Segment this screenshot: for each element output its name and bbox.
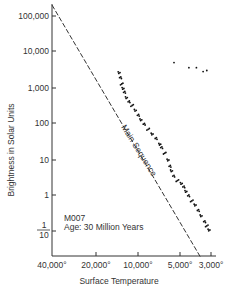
main-sequence-star xyxy=(193,203,195,205)
main-sequence-star xyxy=(170,166,172,168)
main-sequence-star xyxy=(187,195,189,197)
main-sequence-star xyxy=(160,147,162,149)
x-tick-labels: 40,000° 20,000° 10,000° 5,000° 3,000° xyxy=(37,260,223,270)
y-axis-title: Brightness in Solar Units xyxy=(6,103,16,196)
main-sequence-star xyxy=(167,160,169,162)
main-sequence-star xyxy=(121,78,123,80)
y-tick-label: 100,000 xyxy=(18,11,49,21)
main-sequence-star xyxy=(142,123,144,125)
y-tick-label: 100 xyxy=(35,118,49,128)
main-sequence-star xyxy=(175,181,177,183)
main-sequence-star xyxy=(174,176,176,178)
x-axis-title: Surface Temperature xyxy=(79,276,158,286)
y-tick-label-denominator: 10 xyxy=(39,230,49,240)
main-sequence-star xyxy=(200,216,202,218)
main-sequence-star xyxy=(197,210,199,212)
main-sequence-star xyxy=(144,124,146,126)
main-sequence-star xyxy=(130,105,132,107)
y-tick-label: 1 xyxy=(44,190,49,200)
x-tick-label: 5,000° xyxy=(168,260,193,270)
main-sequence-star xyxy=(180,183,182,185)
main-sequence-star xyxy=(199,214,201,216)
main-sequence-star xyxy=(189,196,191,198)
red-giant-star xyxy=(173,62,175,64)
main-sequence-star xyxy=(150,132,152,134)
main-sequence-star xyxy=(205,226,207,228)
main-sequence-star xyxy=(172,175,174,177)
main-sequence-star xyxy=(121,87,123,89)
y-tick-label: 10 xyxy=(40,155,50,165)
main-sequence-star xyxy=(203,221,205,223)
main-sequence-star xyxy=(129,102,131,104)
red-giant-star xyxy=(202,71,204,73)
main-sequence-star xyxy=(134,110,136,112)
main-sequence-star xyxy=(151,134,153,136)
main-sequence-star xyxy=(117,71,119,73)
y-ticks xyxy=(52,16,56,231)
main-sequence-star xyxy=(180,182,182,184)
y-tick-label: 1,000 xyxy=(28,83,50,93)
main-sequence-star xyxy=(207,228,209,230)
main-sequence-star xyxy=(146,129,148,131)
main-sequence-star xyxy=(166,158,168,160)
main-sequence-label: Main Sequence xyxy=(119,123,159,179)
red-giant-star xyxy=(188,67,190,69)
main-sequence-star xyxy=(184,190,186,192)
main-sequence-star xyxy=(138,115,140,117)
x-ticks xyxy=(96,252,211,256)
main-sequence-star xyxy=(162,148,164,150)
main-sequence-star xyxy=(205,222,207,224)
main-sequence-star xyxy=(122,88,124,90)
main-sequence-star xyxy=(139,118,141,120)
main-sequence-star xyxy=(118,73,120,75)
main-sequence-star xyxy=(158,143,160,145)
y-tick-labels: 100,000 10,000 1,000 100 10 1 1 10 xyxy=(18,11,50,240)
main-sequence-star xyxy=(125,98,127,100)
red-giant-star xyxy=(206,70,208,72)
y-tick-label-numerator: 1 xyxy=(42,220,47,230)
main-sequence-star xyxy=(194,205,196,207)
main-sequence-star xyxy=(123,91,125,93)
main-sequence-star xyxy=(208,230,210,232)
x-tick-label: 3,000° xyxy=(199,260,224,270)
main-sequence-star xyxy=(170,169,172,171)
cluster-age: Age: 30 Million Years xyxy=(64,222,143,232)
main-sequence-star xyxy=(119,77,121,79)
main-sequence-star xyxy=(170,171,172,173)
main-sequence-star xyxy=(156,138,158,140)
main-sequence-star xyxy=(125,96,127,98)
y-tick-label: 10,000 xyxy=(23,46,49,56)
red-giant-star xyxy=(196,67,198,69)
main-sequence-star xyxy=(159,144,161,146)
main-sequence-star xyxy=(168,165,170,167)
main-sequence-star xyxy=(134,109,136,111)
main-sequence-star xyxy=(190,201,192,203)
main-sequence-star xyxy=(184,187,186,189)
main-sequence-star xyxy=(163,153,165,155)
hr-diagram-chart: 100,000 10,000 1,000 100 10 1 1 10 40,00… xyxy=(0,0,229,291)
main-sequence-star xyxy=(182,186,184,188)
x-tick-label: 20,000° xyxy=(81,260,110,270)
main-sequence-star xyxy=(140,120,142,122)
main-sequence-star xyxy=(198,210,200,212)
main-sequence-star xyxy=(125,92,127,94)
main-sequence-star xyxy=(154,138,156,140)
main-sequence-star xyxy=(185,191,187,193)
main-sequence-star xyxy=(127,101,129,103)
main-sequence-star xyxy=(120,84,122,86)
main-sequence-star xyxy=(137,114,139,116)
x-tick-label: 10,000° xyxy=(123,260,152,270)
x-tick-label: 40,000° xyxy=(37,260,66,270)
